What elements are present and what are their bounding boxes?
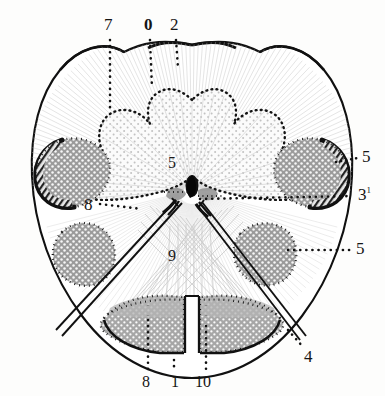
label-bottom-1: 1 — [171, 374, 179, 390]
label-bottom-8: 8 — [142, 374, 150, 390]
label-left-8: 8 — [84, 196, 93, 213]
label-bottom-right-4: 4 — [304, 348, 313, 365]
label-right-5-upper: 5 — [362, 148, 371, 165]
label-right-3-superscript: 1 — [367, 185, 372, 195]
leader-bottom-right-4 — [288, 330, 304, 348]
label-center-9: 9 — [168, 248, 176, 264]
label-top-0: 0 — [144, 16, 153, 33]
label-right-3-sup1: 31 — [358, 186, 371, 203]
label-right-3-base: 3 — [358, 185, 367, 204]
label-top-2: 2 — [170, 16, 179, 33]
section-diagram-svg — [0, 0, 385, 396]
anatomical-figure: 7 0 2 5 31 5 8 5 9 8 1 10 4 — [0, 0, 385, 396]
label-bottom-10: 10 — [195, 374, 211, 390]
label-top-7: 7 — [104, 16, 113, 33]
label-right-5-lower: 5 — [356, 240, 365, 257]
label-center-5: 5 — [168, 155, 176, 171]
anterior-median-fissure — [185, 296, 199, 354]
